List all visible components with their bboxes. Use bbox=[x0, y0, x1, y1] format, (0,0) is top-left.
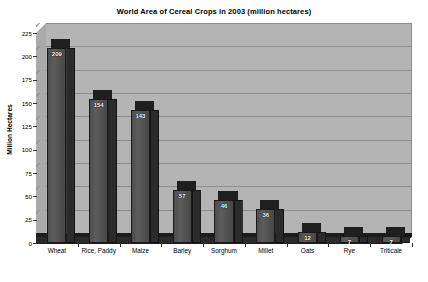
bar-front-face bbox=[47, 48, 66, 243]
bar-value-label: 209 bbox=[47, 51, 66, 57]
bar-side-face bbox=[359, 236, 368, 243]
x-axis-tick-label: Oats bbox=[287, 247, 329, 254]
bar-value-label: 154 bbox=[89, 102, 108, 108]
bar: 57 bbox=[173, 190, 192, 243]
bar: 7 bbox=[382, 236, 401, 243]
bar-top-face bbox=[260, 200, 279, 209]
x-axis-tick-label: Barley bbox=[161, 247, 203, 254]
bar-front-face bbox=[131, 110, 150, 243]
bar-top-face bbox=[344, 227, 363, 236]
x-axis-tick-label: Rye bbox=[328, 247, 370, 254]
bar-top-face bbox=[177, 181, 196, 190]
bar-value-label: 57 bbox=[173, 193, 192, 199]
bar-top-face bbox=[386, 227, 405, 236]
bar-top-face bbox=[218, 191, 237, 200]
bar: 46 bbox=[214, 200, 233, 243]
bar: 36 bbox=[256, 209, 275, 243]
x-axis-tick-label: Sorghum bbox=[203, 247, 245, 254]
bar-top-face bbox=[302, 223, 321, 232]
x-axis-tick-label: Triticale bbox=[370, 247, 412, 254]
bar-side-face bbox=[108, 99, 117, 243]
bar-side-face bbox=[317, 232, 326, 243]
x-axis-tick-mark bbox=[412, 243, 413, 247]
bar-top-face bbox=[135, 101, 154, 110]
bar-side-face bbox=[66, 48, 75, 243]
bar-top-face bbox=[51, 39, 70, 48]
bar-side-face bbox=[234, 200, 243, 243]
bar: 154 bbox=[89, 99, 108, 243]
bar-value-label: 7 bbox=[382, 239, 401, 245]
bar-top-face bbox=[93, 90, 112, 99]
bar-chart-figure: World Area of Cereal Crops in 2003 (mill… bbox=[0, 0, 428, 282]
bar-side-face bbox=[275, 209, 284, 243]
bar-value-label: 12 bbox=[298, 235, 317, 241]
bar: 7 bbox=[340, 236, 359, 243]
bar: 12 bbox=[298, 232, 317, 243]
bar-side-face bbox=[192, 190, 201, 243]
bar-value-label: 36 bbox=[256, 212, 275, 218]
x-axis-tick-label: Millet bbox=[245, 247, 287, 254]
bar-front-face bbox=[89, 99, 108, 243]
bar-value-label: 7 bbox=[340, 239, 359, 245]
bar-side-face bbox=[150, 110, 159, 243]
x-axis-tick-label: Rice, Paddy bbox=[78, 247, 120, 254]
bars-group: 2091541435746361277 bbox=[0, 0, 428, 282]
bar-side-face bbox=[401, 236, 410, 243]
bar: 143 bbox=[131, 110, 150, 243]
bar-value-label: 46 bbox=[214, 203, 233, 209]
x-axis-tick-label: Wheat bbox=[36, 247, 78, 254]
bar: 209 bbox=[47, 48, 66, 243]
x-axis-tick-label: Maize bbox=[120, 247, 162, 254]
bar-value-label: 143 bbox=[131, 113, 150, 119]
cropped-caption-sliver bbox=[8, 276, 420, 282]
